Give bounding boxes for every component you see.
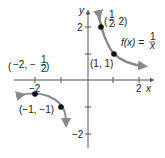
svg-text:x: x xyxy=(149,40,156,51)
x-axis-label: x xyxy=(145,83,152,94)
label-1-1: (1, 1) xyxy=(90,58,113,69)
svg-text:(: ( xyxy=(8,61,12,72)
svg-text:f(x) =: f(x) = xyxy=(121,37,144,48)
point-neg2-neghalf xyxy=(32,91,38,97)
point-half-2 xyxy=(98,24,104,30)
y-tick-label: −2 xyxy=(72,129,84,140)
y-axis-label: y xyxy=(78,5,85,16)
label-neg1-neg1: (−1, −1) xyxy=(19,104,54,115)
point-neg1-neg1 xyxy=(58,104,64,110)
y-tick-label: 2 xyxy=(77,22,83,33)
function-label: f(x) = 1 x xyxy=(121,31,156,51)
svg-text:, 2): , 2) xyxy=(113,16,127,27)
svg-text:(: ( xyxy=(104,16,108,27)
label-half-2: ( 1 2 , 2) xyxy=(104,9,127,29)
chart: −2 2 x 2 −2 y ( 1 2 , 2) f(x) = 1 x (1, … xyxy=(0,0,165,158)
label-neg2-neghalf: ( −2, − 1 2 ) xyxy=(8,54,49,74)
svg-text:−2, −: −2, − xyxy=(13,59,36,70)
point-1-1 xyxy=(111,51,117,57)
svg-text:): ) xyxy=(46,61,49,72)
x-tick-label: 2 xyxy=(136,83,142,94)
